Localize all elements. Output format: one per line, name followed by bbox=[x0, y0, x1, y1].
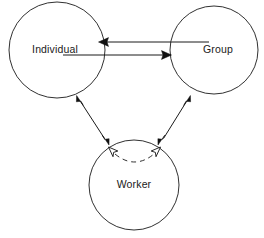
arrow-individual-worker[interactable] bbox=[76, 96, 109, 146]
relationship-diagram: Individual Group Worker bbox=[0, 0, 264, 238]
arrowhead-up-left-filled bbox=[76, 96, 83, 106]
diagram-canvas: Individual Group Worker bbox=[0, 0, 264, 238]
arrowhead-hollow-right bbox=[151, 147, 160, 157]
arrowhead-down-right-filled bbox=[102, 135, 109, 145]
arrow-shaft-group-worker bbox=[164, 102, 187, 139]
arrow-group-to-individual[interactable] bbox=[99, 38, 210, 47]
arrowhead-down-left-filled bbox=[158, 135, 165, 145]
worker-label: Worker bbox=[117, 178, 152, 190]
arrowhead-up-right-filled bbox=[184, 96, 191, 106]
worker-internal-dashed-arc[interactable] bbox=[109, 147, 161, 162]
arrow-group-worker[interactable] bbox=[158, 96, 191, 146]
dashed-arc-path bbox=[115, 154, 154, 162]
arrow-shaft-individual-worker bbox=[81, 102, 105, 139]
individual-label: Individual bbox=[32, 43, 78, 55]
group-label: Group bbox=[203, 43, 233, 55]
arrow-individual-to-group[interactable] bbox=[63, 51, 172, 60]
